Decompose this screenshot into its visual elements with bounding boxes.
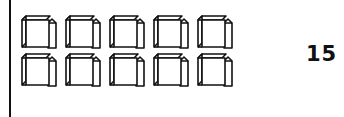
cube-icon xyxy=(195,53,239,91)
cube-icon xyxy=(195,15,239,53)
cube-icon xyxy=(151,15,195,53)
cube-icon xyxy=(19,15,63,53)
cube-grid xyxy=(19,15,239,91)
cube-icon xyxy=(107,15,151,53)
answer-number: 15 xyxy=(306,42,337,66)
cube-icon xyxy=(19,53,63,91)
cube-icon xyxy=(63,15,107,53)
left-margin-line xyxy=(9,0,11,117)
cube-icon xyxy=(151,53,195,91)
cube-icon xyxy=(63,53,107,91)
cube-icon xyxy=(107,53,151,91)
